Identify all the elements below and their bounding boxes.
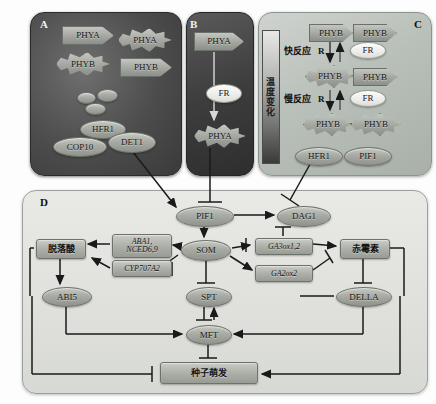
temperature-change-label: 温度变化 — [265, 77, 278, 117]
seed-germination-box: 种子萌发 — [160, 362, 258, 384]
temperature-change-bar: 温度变化 — [262, 30, 280, 164]
panel-a-det1: DET1 — [108, 132, 156, 153]
pathway-figure: A B C D PHYA PHYA PHYB PHYB HFR1 COP10 D… — [0, 0, 436, 404]
far-red-fast-label: FR — [350, 42, 386, 59]
dag1-node: DAG1 — [277, 206, 331, 227]
spt-node: SPT — [186, 287, 232, 307]
abscisic-acid-box: 脱落酸 — [36, 239, 86, 259]
aba-biosynthesis-genes: ABA1, NCED6,9 — [112, 234, 172, 258]
della-node: DELLA — [336, 287, 392, 307]
ga-biosynthesis-gene: GA3ox1,2 — [255, 238, 313, 255]
panel-c-hfr1: HFR1 — [295, 147, 343, 166]
aba-catabolism-gene: CYP707A2 — [112, 260, 172, 277]
pif1-node: PIF1 — [176, 206, 234, 227]
abi5-node: ABI5 — [42, 287, 92, 307]
fast-response-label: 快反应 — [284, 44, 311, 57]
som-node: SOM — [181, 240, 231, 261]
gibberellin-box: 赤霉素 — [340, 239, 390, 259]
panel-a-cop10: COP10 — [53, 137, 107, 157]
red-light-fast-label: R — [318, 46, 325, 56]
red-light-slow-label: R — [318, 94, 325, 104]
panel-a-subunit-2 — [97, 89, 118, 102]
ga-catabolism-gene: GA2ox2 — [255, 265, 313, 282]
panel-b-fr-signal: FR — [206, 84, 242, 103]
far-red-slow-label: FR — [350, 90, 386, 107]
panel-c-pif1: PIF1 — [344, 147, 392, 166]
mft-node: MFT — [186, 325, 232, 345]
panel-d-label: D — [40, 196, 48, 208]
panel-a-label: A — [40, 18, 48, 30]
slow-response-label: 慢反应 — [284, 92, 311, 105]
panel-a-subunit-3 — [85, 103, 106, 115]
panel-c-label: C — [414, 18, 422, 30]
panel-b-label: B — [190, 18, 197, 30]
